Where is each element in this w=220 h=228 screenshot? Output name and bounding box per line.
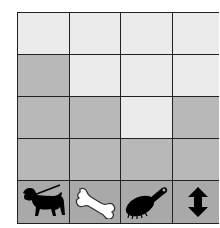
up-down-arrow-icon [186, 186, 210, 218]
grid-row-3 [18, 97, 219, 139]
cell-r1-c4 [173, 13, 220, 55]
icon-row [18, 181, 219, 223]
cell-r1-c2 [70, 13, 122, 55]
grid-row-4 [18, 139, 219, 181]
cell-r1-c3 [121, 13, 173, 55]
cell-r3-c1 [18, 97, 70, 139]
icon-cell-dog [18, 181, 70, 223]
cell-r4-c2 [70, 139, 122, 181]
icon-cell-bone [70, 181, 122, 223]
grid-row-1 [18, 13, 219, 55]
cell-r3-c3 [121, 97, 173, 139]
cell-r1-c1 [18, 13, 70, 55]
cell-r3-c4 [173, 97, 220, 139]
cell-r4-c1 [18, 139, 70, 181]
brush-icon [123, 184, 169, 220]
cell-r2-c4 [173, 55, 220, 97]
icon-cell-brush [121, 181, 173, 223]
grid-row-2 [18, 55, 219, 97]
cell-r2-c3 [121, 55, 173, 97]
bone-icon [72, 185, 118, 219]
cell-r2-c1 [18, 55, 70, 97]
cell-r3-c2 [70, 97, 122, 139]
pictograph-grid [17, 12, 219, 224]
cell-r4-c3 [121, 139, 173, 181]
cell-r4-c4 [173, 139, 220, 181]
cell-r2-c2 [70, 55, 122, 97]
dog-on-leash-icon [20, 183, 66, 221]
icon-cell-arrow [173, 181, 220, 223]
